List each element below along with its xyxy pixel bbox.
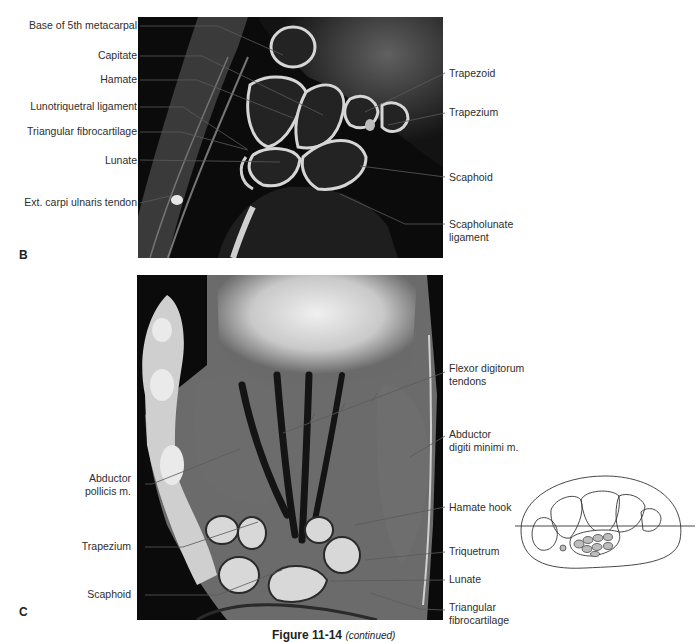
label-abductor-pollicis-line1: Abductor [89, 472, 131, 485]
label-flexor-digitorum-line2: tendons [449, 375, 486, 388]
panel-letter-b: B [19, 248, 28, 262]
label-base-of-5th-metacarpal: Base of 5th metacarpal [29, 19, 137, 32]
label-lunate-c: Lunate [449, 573, 481, 586]
label-abductor-digiti-line1: Abductor [449, 428, 491, 441]
figure-number: Figure 11-14 [272, 628, 342, 642]
wrist-cross-section-diagram [515, 470, 695, 580]
mri-image-panel-c [137, 275, 443, 620]
label-scaphoid-c: Scaphoid [87, 588, 131, 601]
panel-letter-c: C [19, 605, 28, 619]
label-abductor-digiti-line2: digiti minimi m. [449, 441, 518, 454]
label-trapezium-b: Trapezium [449, 106, 498, 119]
label-trapezoid: Trapezoid [449, 67, 495, 80]
label-triquetrum: Triquetrum [449, 545, 499, 558]
label-scapholunate-line1: Scapholunate [449, 218, 513, 231]
label-lunate-b: Lunate [105, 154, 137, 167]
label-hamate-hook: Hamate hook [449, 501, 511, 514]
label-triangular-fibrocartilage-b: Triangular fibrocartilage [27, 125, 137, 138]
label-scapholunate-line2: ligament [449, 231, 489, 244]
label-capitate: Capitate [98, 49, 137, 62]
label-hamate: Hamate [100, 73, 137, 86]
label-triangular-fibrocartilage-c-line1: Triangular [449, 601, 496, 614]
label-triangular-fibrocartilage-c-line2: fibrocartilage [449, 614, 509, 627]
label-trapezium-c: Trapezium [82, 540, 131, 553]
label-ext-carpi-ulnaris-tendon: Ext. carpi ulnaris tendon [24, 196, 137, 209]
mri-image-panel-b [138, 17, 443, 258]
label-scaphoid-b: Scaphoid [449, 171, 493, 184]
figure-caption: Figure 11-14 (continued) [272, 628, 395, 642]
label-abductor-pollicis-line2: pollicis m. [85, 485, 131, 498]
label-flexor-digitorum-line1: Flexor digitorum [449, 362, 524, 375]
figure-continued: (continued) [345, 630, 395, 641]
label-lunotriquetral-ligament: Lunotriquetral ligament [30, 100, 137, 113]
